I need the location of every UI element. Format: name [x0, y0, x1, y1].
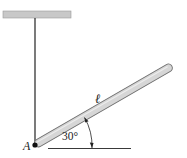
angle-label: 30° [62, 130, 79, 142]
diagram-canvas: A ℓ 30° [0, 0, 187, 158]
length-label: ℓ [95, 91, 101, 106]
pivot-label: A [22, 139, 31, 153]
pivot-point [32, 142, 37, 147]
ceiling-support [3, 11, 71, 18]
arrowhead-icon [90, 143, 94, 148]
rod [33, 63, 174, 149]
